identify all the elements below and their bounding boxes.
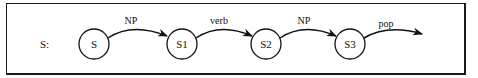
- state-label: S1: [176, 38, 188, 50]
- arc-label: pop: [379, 18, 394, 29]
- row-label: S:: [40, 38, 49, 50]
- arc-label: NP: [298, 15, 311, 26]
- state-label: S: [91, 38, 97, 50]
- arc-S-S1: NP: [108, 15, 167, 38]
- state-label: S3: [344, 38, 356, 50]
- state-S3: S3: [335, 29, 365, 59]
- arc-S1-S2: verb: [196, 15, 252, 38]
- arc-S3-pop: pop: [364, 18, 422, 38]
- state-label: S2: [260, 38, 272, 50]
- arc-S2-S3: NP: [280, 15, 336, 38]
- state-S2: S2: [251, 29, 281, 59]
- arrow-icon: [108, 29, 167, 38]
- state-S1: S1: [167, 29, 197, 59]
- state-S: S: [79, 29, 109, 59]
- arrow-icon: [280, 29, 336, 38]
- transition-network-diagram: S: S S1 S2 S3 NP verb NP pop: [0, 0, 478, 78]
- arc-label: NP: [125, 15, 138, 26]
- arc-label: verb: [210, 15, 228, 26]
- arrow-icon: [364, 30, 422, 38]
- arrow-icon: [196, 29, 252, 38]
